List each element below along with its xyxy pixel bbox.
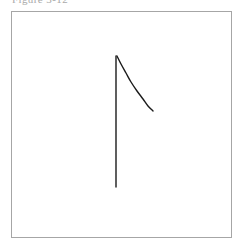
- plot-frame: [11, 11, 232, 238]
- figure-caption: Figure 3-12: [12, 0, 68, 5]
- figure-caption-strip: Figure 3-12: [0, 0, 243, 9]
- figure-page: Figure 3-12: [0, 0, 243, 247]
